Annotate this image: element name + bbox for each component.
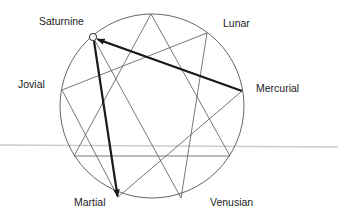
divider-line [0,145,338,147]
label-martial: Martial [74,197,106,208]
enneagram-diagram [0,0,338,218]
label-saturnine: Saturnine [39,16,84,27]
saturnine-point-marker [89,33,96,40]
label-mercurial: Mercurial [256,83,299,94]
label-jovial: Jovial [18,79,45,90]
label-venusian: Venusian [210,197,253,208]
label-lunar: Lunar [223,18,250,29]
outer-circle [60,14,244,198]
